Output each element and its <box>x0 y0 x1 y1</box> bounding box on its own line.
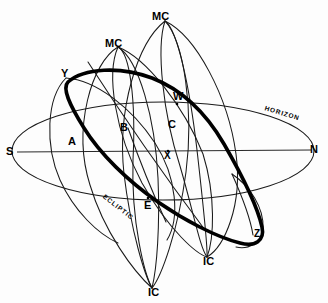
label-ic-right: IC <box>203 256 214 267</box>
house-circle-1 <box>83 47 159 288</box>
label-point-x: X <box>164 151 171 161</box>
label-north: N <box>310 144 318 155</box>
label-point-w: W <box>173 91 184 102</box>
label-point-c: C <box>168 119 176 130</box>
label-point-a: A <box>68 136 76 147</box>
label-point-e: E <box>144 200 152 211</box>
label-south: S <box>6 146 14 157</box>
label-point-b: B <box>120 122 128 133</box>
label-point-z: Z <box>254 229 260 239</box>
label-mc-right: MC <box>152 11 170 22</box>
celestial-sphere-diagram: S N HORIZON ECLIPTIC MC MC IC IC Y W A B… <box>0 0 328 303</box>
label-point-y: Y <box>61 68 69 79</box>
label-mc-left: MC <box>105 38 123 49</box>
label-ic-left: IC <box>148 287 159 298</box>
